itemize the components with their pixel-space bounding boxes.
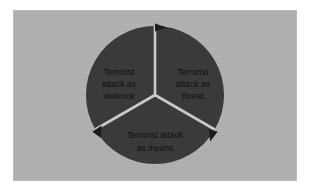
label-violence-line-1: Terrorist <box>104 68 135 77</box>
label-means-line-1: Terrorist attack <box>127 131 184 140</box>
label-violence-line-2: attack as <box>102 80 136 89</box>
label-threat-line-2: attack as <box>176 80 210 89</box>
label-means-line-2: as means <box>137 144 174 153</box>
figure-root: Terrorist attack as threat Terrorist att… <box>0 0 309 193</box>
cycle-diagram-svg: Terrorist attack as threat Terrorist att… <box>13 10 297 181</box>
diagram-panel: Terrorist attack as threat Terrorist att… <box>13 10 297 181</box>
arrow-lower-right-icon <box>209 129 218 141</box>
label-violence: Terrorist attack as violence <box>102 68 136 101</box>
label-violence-line-3: violence <box>103 92 135 101</box>
label-threat-line-1: Terrorist <box>178 68 209 77</box>
label-threat-line-3: threat <box>182 92 204 101</box>
